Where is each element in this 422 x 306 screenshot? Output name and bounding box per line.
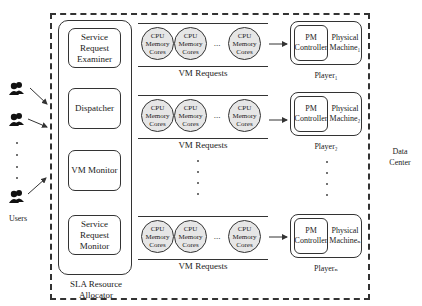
vm-request-queue: CPU Memory Cores CPU Memory Cores ... CP… bbox=[138, 95, 268, 139]
pm-controller: PM Controller bbox=[294, 96, 328, 132]
vm-request: CPU Memory Cores bbox=[228, 220, 261, 253]
ellipsis-dot bbox=[326, 183, 328, 185]
module-service-request-examiner: Service Request Examiner bbox=[68, 28, 121, 68]
physical-machine-label: Physical Machineₙ bbox=[328, 215, 362, 257]
vm-request-queue: CPU Memory Cores CPU Memory Cores ... CP… bbox=[138, 216, 268, 260]
ellipsis-dot bbox=[16, 177, 18, 179]
module-vm-monitor: VM Monitor bbox=[68, 150, 121, 191]
sla-resource-allocator-label: SLA Resource Allocator bbox=[66, 279, 126, 301]
module-service-request-monitor: Service Request Monitor bbox=[68, 215, 121, 255]
vm-request: CPU Memory Cores bbox=[174, 220, 207, 253]
vm-request-queue: CPU Memory Cores CPU Memory Cores ... CP… bbox=[138, 23, 268, 67]
ellipsis-dot bbox=[326, 194, 328, 196]
vm-request: CPU Memory Cores bbox=[174, 99, 207, 132]
pm-controller: PM Controller bbox=[294, 218, 328, 254]
physical-machine-n: PM Controller Physical Machineₙ bbox=[290, 214, 362, 258]
physical-machine-label: Physical Machine₂ bbox=[328, 93, 362, 135]
data-center-label: Data Center bbox=[382, 146, 418, 168]
vm-request: CPU Memory Cores bbox=[228, 99, 261, 132]
ellipsis: ... bbox=[208, 231, 226, 242]
player-label: Player₁ bbox=[290, 70, 362, 81]
ellipsis: ... bbox=[208, 110, 226, 121]
ellipsis-dot bbox=[16, 166, 18, 168]
vm-request: CPU Memory Cores bbox=[174, 27, 207, 60]
ellipsis-dot bbox=[16, 142, 18, 144]
ellipsis-dot bbox=[197, 182, 199, 184]
ellipsis-dot bbox=[197, 160, 199, 162]
vm-request: CPU Memory Cores bbox=[141, 27, 174, 60]
physical-machine-label: Physical Machine₁ bbox=[328, 22, 362, 64]
ellipsis-dot bbox=[197, 171, 199, 173]
vm-requests-label: VM Requests bbox=[138, 68, 268, 79]
vm-requests-label: VM Requests bbox=[138, 261, 268, 272]
pm-controller: PM Controller bbox=[294, 25, 328, 61]
module-dispatcher: Dispatcher bbox=[68, 88, 121, 129]
player-label: Player₂ bbox=[290, 141, 362, 152]
vm-request: CPU Memory Cores bbox=[141, 99, 174, 132]
vm-request: CPU Memory Cores bbox=[141, 220, 174, 253]
physical-machine-1: PM Controller Physical Machine₁ bbox=[290, 21, 362, 65]
physical-machine-2: PM Controller Physical Machine₂ bbox=[290, 92, 362, 136]
ellipsis-dot bbox=[326, 172, 328, 174]
vm-requests-label: VM Requests bbox=[138, 140, 268, 151]
vm-request: CPU Memory Cores bbox=[228, 27, 261, 60]
player-label: Playerₙ bbox=[290, 263, 362, 274]
ellipsis-dot bbox=[16, 154, 18, 156]
ellipsis-dot bbox=[326, 161, 328, 163]
ellipsis-dot bbox=[197, 193, 199, 195]
users-label: Users bbox=[4, 213, 32, 224]
ellipsis: ... bbox=[208, 38, 226, 49]
